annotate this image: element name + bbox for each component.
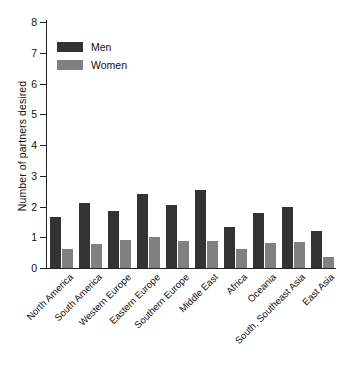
x-tick-label: Africa [224,272,248,296]
x-axis-tick-labels: North AmericaSouth AmericaWestern Europe… [0,0,345,372]
bar-chart: Number of partners desired 012345678 Men… [0,0,345,372]
